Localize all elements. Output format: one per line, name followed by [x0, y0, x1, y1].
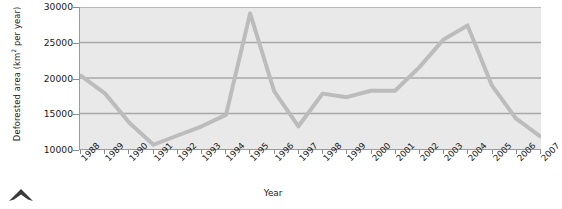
- y-axis-tick-20000: 20000: [27, 74, 73, 83]
- gridlines: [80, 7, 541, 114]
- y-axis-label-tail: per year): [12, 7, 22, 49]
- pagoda-mark-icon: [6, 186, 36, 206]
- y-axis-label: Deforested area (km2 per year): [10, 0, 22, 149]
- y-axis-tick-25000: 25000: [27, 38, 73, 47]
- chart-svg: [80, 7, 541, 149]
- data-line-series-deforested-area: [81, 13, 540, 144]
- y-axis-tick-10000: 10000: [27, 145, 73, 154]
- y-tick-mark-10000: [73, 150, 79, 151]
- y-axis-tick-30000: 30000: [27, 2, 73, 11]
- y-axis-label-superscript: 2: [10, 49, 17, 53]
- x-axis-tick-2007: 2007: [539, 141, 562, 164]
- y-axis-tick-15000: 15000: [27, 109, 73, 118]
- plot-area: [79, 7, 541, 150]
- x-axis-label: Year: [0, 188, 546, 198]
- y-axis-tick-labels: 1000015000200002500030000: [27, 0, 73, 209]
- y-axis-label-main: Deforested area (km: [12, 53, 22, 141]
